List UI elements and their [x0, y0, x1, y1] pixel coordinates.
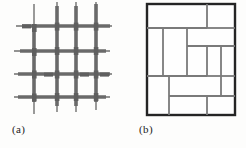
mesh-knot — [32, 71, 37, 79]
mesh-knot — [55, 23, 60, 31]
mesh-knot — [32, 24, 37, 32]
mesh-knot — [94, 93, 99, 101]
figure-sheet: (a) (b) — [0, 0, 246, 148]
mesh-knot — [55, 71, 60, 79]
woven-mesh-figure — [14, 2, 114, 116]
mesh-knot — [100, 73, 109, 77]
mesh-knot — [32, 94, 37, 102]
mesh-knot — [55, 93, 60, 101]
figure-panel-a: (a) — [0, 0, 123, 148]
figure-panel-b: (b) — [123, 0, 246, 148]
figure-caption-a: (a) — [12, 123, 72, 136]
mesh-knot — [74, 93, 79, 101]
mesh-knot — [74, 47, 79, 55]
mesh-knot — [44, 73, 53, 77]
mesh-knot — [32, 48, 37, 56]
mesh-knot — [22, 24, 31, 28]
mesh-knot — [94, 47, 99, 55]
mesh-knot — [94, 71, 99, 79]
figure-caption-b: (b) — [139, 123, 199, 136]
mesh-knot — [74, 71, 79, 79]
mesh-knot — [80, 73, 89, 77]
rectangular-partition-figure — [145, 2, 237, 117]
mesh-knot — [94, 23, 99, 31]
mesh-knot — [55, 47, 60, 55]
mesh-thick-vertical-strands — [34, 4, 96, 106]
mesh-knot — [74, 23, 79, 31]
